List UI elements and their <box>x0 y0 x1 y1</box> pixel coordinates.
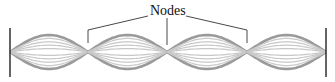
nodes-label: Nodes <box>150 3 186 19</box>
standing-wave-diagram: Nodes <box>0 0 335 82</box>
wave-loops <box>10 35 326 69</box>
